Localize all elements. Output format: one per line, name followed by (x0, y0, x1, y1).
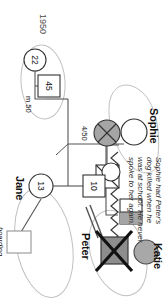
line-jane-to-school (21, 199, 41, 232)
diagram-rotator: 1950 Sophie Katie Peter Jane Sophie had … (0, 0, 168, 304)
age-label-10: 10 (89, 175, 99, 197)
age-label-13: 13 (36, 175, 46, 197)
symbol-peter-deceased (96, 231, 132, 271)
boarding-school-label-line1: boarding (0, 227, 4, 256)
symbol-quartered-circle (94, 120, 120, 146)
annotation-line-2: dog killed when he (144, 157, 153, 223)
genogram-canvas: 1950 Sophie Katie Peter Jane Sophie had … (0, 0, 168, 304)
marriage-date-label: m 50 (24, 96, 32, 113)
person-label-peter: Peter (80, 233, 92, 260)
age-label-45: 45 (44, 75, 54, 97)
divorce-date-label: 4/50 (80, 126, 88, 141)
symbol-boarding-school-box (7, 231, 31, 253)
annotation-line-4: spoke to her again. (126, 157, 135, 225)
age-label-22: 22 (30, 49, 40, 71)
annotation-line-1: Sophie had Peter's (153, 157, 162, 224)
person-label-sophie: Sophie (148, 108, 160, 143)
person-label-katie: Katie (152, 243, 164, 269)
person-label-jane: Jane (14, 176, 26, 200)
annotation-line-3: was at school. He never (135, 157, 144, 242)
connector-lines (21, 70, 124, 238)
year-label: 1950 (38, 14, 48, 34)
sibling-tick (56, 144, 68, 155)
symbol-sophie-circle (121, 119, 147, 145)
